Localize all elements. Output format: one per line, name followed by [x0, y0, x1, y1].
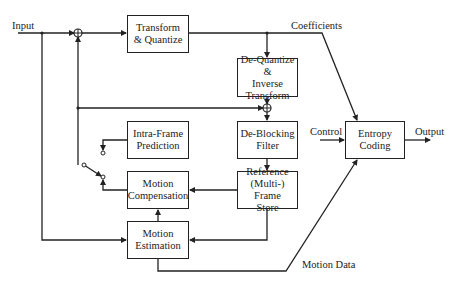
- output-label: Output: [415, 126, 444, 137]
- transform-quantize-label: Transform & Quantize: [134, 22, 183, 46]
- sum-node-reconstruction: [263, 104, 271, 112]
- deblocking-label: De-Blocking Filter: [240, 128, 294, 152]
- motion-compensation-block: Motion Compensation: [127, 171, 189, 209]
- reference-frame-store-block: Reference (Multi-) Frame Store: [237, 171, 298, 209]
- intra-frame-prediction-block: Intra-Frame Prediction: [127, 121, 189, 159]
- motion-estimation-block: Motion Estimation: [127, 221, 189, 259]
- encoder-block-diagram: Transform & Quantize De-Quantize & Inver…: [0, 0, 473, 305]
- dequantize-inverse-transform-block: De-Quantize & Inverse Transform: [237, 58, 298, 97]
- sum-node-input: [74, 29, 82, 37]
- entropy-coding-block: Entropy Coding: [345, 121, 405, 159]
- dequantize-label: De-Quantize & Inverse Transform: [238, 54, 297, 102]
- motion-comp-label: Motion Compensation: [128, 178, 189, 202]
- control-label: Control: [310, 126, 342, 137]
- transform-quantize-block: Transform & Quantize: [127, 15, 189, 53]
- intra-label: Intra-Frame Prediction: [133, 128, 183, 152]
- coefficients-label: Coefficients: [291, 20, 342, 31]
- input-label: Input: [12, 20, 34, 31]
- deblocking-filter-block: De-Blocking Filter: [237, 121, 298, 159]
- motion-data-label: Motion Data: [302, 259, 355, 270]
- entropy-label: Entropy Coding: [358, 128, 392, 152]
- prediction-switch: [82, 151, 105, 179]
- motion-est-label: Motion Estimation: [135, 228, 181, 252]
- reference-label: Reference (Multi-) Frame Store: [238, 166, 297, 214]
